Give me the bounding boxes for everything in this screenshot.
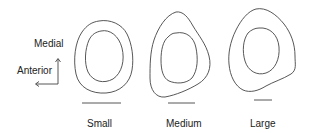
cross-section-large bbox=[229, 9, 296, 100]
section-label-small: Small bbox=[87, 119, 112, 129]
outer-contour-medium bbox=[150, 12, 210, 97]
inner-contour-medium bbox=[161, 33, 197, 83]
bone-cross-section-diagram: Medial Anterior Small Medium Large bbox=[0, 0, 311, 133]
outer-contour-small bbox=[75, 21, 133, 94]
medial-label: Medial bbox=[34, 39, 63, 49]
inner-contour-small bbox=[85, 31, 123, 82]
outer-contour-large bbox=[229, 9, 296, 92]
inner-contour-large bbox=[243, 28, 279, 74]
anterior-label: Anterior bbox=[17, 66, 52, 76]
cross-section-medium bbox=[150, 12, 210, 103]
section-label-medium: Medium bbox=[166, 119, 202, 129]
cross-section-small bbox=[75, 21, 133, 103]
section-label-large: Large bbox=[250, 119, 276, 129]
